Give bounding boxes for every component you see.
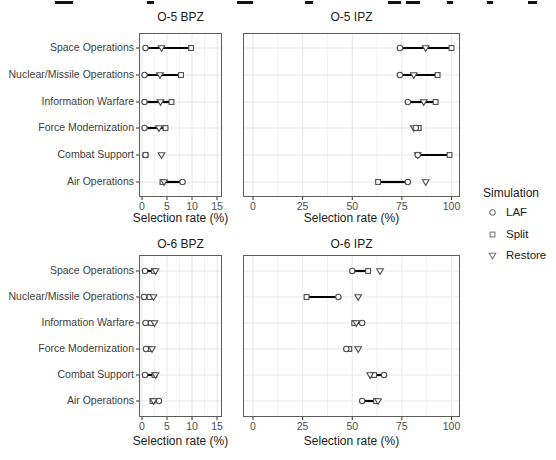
marker-circle xyxy=(142,99,147,104)
x-tick-label: 0 xyxy=(139,420,145,432)
x-tick-label: 100 xyxy=(443,420,461,432)
legend-item-label: Restore xyxy=(506,248,546,262)
xaxis-title-o5-ipz: Selection rate (%) xyxy=(243,211,460,225)
x-tick-label: 25 xyxy=(297,420,309,432)
marker-circle xyxy=(142,268,147,273)
marker-square xyxy=(189,46,194,51)
marker-circle xyxy=(405,179,410,184)
panel-o-5-bpz: 051015 xyxy=(136,33,223,212)
marker-circle xyxy=(142,125,147,130)
marker-square xyxy=(433,100,438,105)
marker-square xyxy=(304,295,309,300)
x-tick-label: 75 xyxy=(396,420,408,432)
restore-triangle-icon xyxy=(486,249,499,262)
marker-circle xyxy=(490,209,495,214)
panel-o-6-ipz: 0255075100 xyxy=(243,255,460,432)
x-tick-label: 10 xyxy=(186,420,198,432)
marker-circle xyxy=(415,152,420,157)
marker-square xyxy=(449,46,454,51)
panel-background xyxy=(243,33,460,197)
marker-circle xyxy=(143,320,148,325)
x-tick-label: 0 xyxy=(250,420,256,432)
marker-square xyxy=(447,153,452,158)
marker-square xyxy=(163,126,168,131)
legend-item-laf: LAF xyxy=(486,205,527,219)
marker-square xyxy=(366,269,371,274)
marker-circle xyxy=(141,294,146,299)
marker-circle xyxy=(143,45,148,50)
legend-title: Simulation xyxy=(483,186,539,200)
marker-circle xyxy=(413,125,418,130)
xaxis-title-o6-bpz: Selection rate (%) xyxy=(131,434,230,448)
legend-item-label: Split xyxy=(506,227,528,241)
legend-item-restore: Restore xyxy=(486,248,546,262)
marker-circle xyxy=(156,398,161,403)
legend-item-split: Split xyxy=(486,227,528,241)
x-tick-label: 5 xyxy=(164,420,170,432)
marker-circle xyxy=(397,45,402,50)
legend-item-label: LAF xyxy=(506,205,527,219)
marker-circle xyxy=(350,268,355,273)
marker-square xyxy=(179,73,184,78)
panel-background xyxy=(139,255,222,417)
marker-circle xyxy=(397,72,402,77)
laf-circle-icon xyxy=(486,206,499,219)
panel-o-6-bpz: 051015 xyxy=(136,255,223,432)
marker-square xyxy=(490,232,495,237)
xaxis-title-o6-ipz: Selection rate (%) xyxy=(243,434,460,448)
x-tick-label: 50 xyxy=(346,420,358,432)
marker-circle xyxy=(180,179,185,184)
marker-square xyxy=(435,73,440,78)
marker-circle xyxy=(336,294,341,299)
panel-background xyxy=(139,33,222,197)
panel-o-5-ipz: 0255075100 xyxy=(243,33,460,212)
marker-square xyxy=(376,180,381,185)
chart-canvas: 05101502550751000510150255075100 xyxy=(0,0,556,460)
marker-circle xyxy=(359,398,364,403)
marker-circle xyxy=(359,320,364,325)
marker-circle xyxy=(142,372,147,377)
xaxis-title-o5-bpz: Selection rate (%) xyxy=(131,211,230,225)
marker-circle xyxy=(381,372,386,377)
marker-circle xyxy=(143,152,148,157)
marker-square xyxy=(169,100,174,105)
marker-circle xyxy=(405,99,410,104)
marker-circle xyxy=(344,346,349,351)
figure: O-5 BPZ O-5 IPZ O-6 BPZ O-6 IPZ Space Op… xyxy=(0,0,556,460)
marker-circle xyxy=(142,72,147,77)
marker-triangle-down xyxy=(489,253,496,259)
x-tick-label: 15 xyxy=(211,420,223,432)
marker-circle xyxy=(143,346,148,351)
split-square-icon xyxy=(486,228,499,241)
panel-background xyxy=(243,255,460,417)
